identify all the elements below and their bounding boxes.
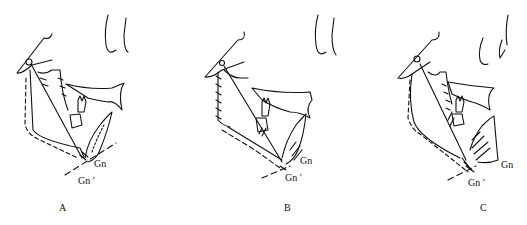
panel-b-drawing	[205, 15, 336, 178]
soft-tissue-profile-icon	[105, 15, 116, 52]
panel-c-label: C	[480, 203, 487, 213]
panel-c-gn-prime-label: Gn ′	[468, 178, 485, 188]
panel-b-gn-prime-label: Gn ′	[285, 173, 302, 183]
panel-a-gn-prime-label: Gn ′	[78, 176, 95, 186]
panel-c-gn-label: Gn	[501, 160, 513, 170]
panel-b-gn-label: Gn	[300, 156, 312, 166]
panel-a-label: A	[59, 203, 66, 213]
panel-c-drawing	[398, 15, 508, 180]
figure-drawing	[0, 0, 527, 225]
panel-b-label: B	[284, 203, 291, 213]
panel-a-gn-label: Gn	[94, 159, 106, 169]
panel-a-drawing	[17, 15, 128, 175]
